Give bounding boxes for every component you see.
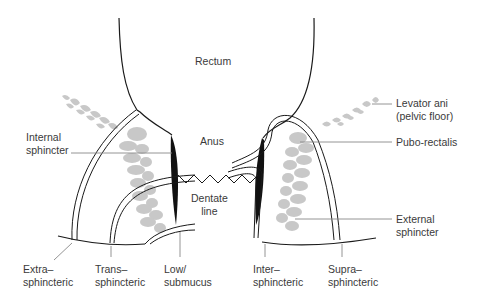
label-external-sphincter: External sphincter: [396, 213, 439, 238]
label-inter-sphincteric: Inter– sphincteric: [253, 263, 303, 288]
label-trans-sphincteric: Trans– sphincteric: [95, 263, 145, 288]
levator-ani-left: [62, 95, 118, 129]
label-low-submucus: Low/ submucus: [164, 263, 212, 288]
label-pubo-rectalis: Pubo-rectalis: [396, 136, 457, 149]
label-rectum: Rectum: [195, 55, 231, 68]
dentate-line: [178, 175, 258, 183]
label-extra-sphincteric: Extra– sphincteric: [23, 263, 73, 288]
anorectal-diagram: [0, 0, 477, 303]
internal-sphincter-left: [171, 135, 178, 225]
label-anus: Anus: [200, 135, 224, 148]
external-sphincter-right: [276, 132, 314, 231]
leader-lines: [54, 104, 392, 260]
label-dentate-line: Dentate line: [191, 192, 228, 217]
levator-ani-right: [322, 97, 379, 127]
skin-line: [58, 236, 376, 245]
extra-sphincteric-tract: [72, 110, 136, 240]
label-levator-ani: Levator ani (pelvic floor): [396, 97, 453, 122]
rectum-wall: [119, 18, 314, 138]
label-internal-sphincter: Internal sphincter: [26, 131, 69, 156]
label-supra-sphincteric: Supra– sphincteric: [328, 263, 378, 288]
trans-sphincteric-tract: [110, 175, 195, 243]
